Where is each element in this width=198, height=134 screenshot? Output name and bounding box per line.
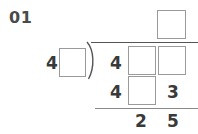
problem-number-label: 01 [9, 10, 32, 26]
remainder-digit-1: 2 [133, 113, 149, 130]
division-bracket-icon [85, 41, 99, 81]
dividend-box-2[interactable] [158, 46, 186, 75]
division-worksheet-problem: 01 4 4 4 3 2 5 [0, 0, 198, 134]
dividend-box-1[interactable] [128, 46, 156, 75]
division-vinculum [91, 42, 198, 43]
dividend-digit-1: 4 [108, 55, 124, 72]
remainder-digit-2: 5 [165, 113, 181, 130]
subtrahend-digit-1: 4 [108, 84, 124, 101]
divisor-box-1[interactable] [59, 48, 86, 77]
divisor-digit-1: 4 [44, 55, 60, 72]
subtrahend-digit-2: 3 [165, 84, 181, 101]
subtrahend-box-1[interactable] [128, 76, 156, 105]
quotient-box-1[interactable] [157, 10, 186, 39]
subtraction-rule [95, 108, 198, 109]
